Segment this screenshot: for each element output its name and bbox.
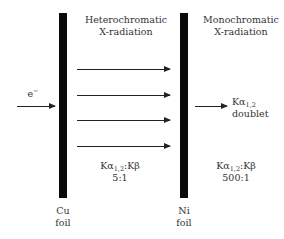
xray-arrow-2 bbox=[77, 95, 170, 96]
ni-foil-bar bbox=[180, 13, 188, 198]
ratio-expression-ni: Kα1,2:Kβ bbox=[206, 160, 266, 172]
heterochromatic-ratio: Kα1,2:Kβ 5:1 bbox=[90, 160, 150, 184]
cu-foil-label: Cu foil bbox=[48, 205, 78, 229]
output-arrow bbox=[195, 106, 227, 107]
monochromatic-ratio: Kα1,2:Kβ 500:1 bbox=[206, 160, 266, 184]
xray-arrow-3 bbox=[77, 120, 170, 121]
ratio-expression-cu: Kα1,2:Kβ bbox=[90, 160, 150, 172]
doublet-word: doublet bbox=[232, 108, 274, 120]
ni-element-text: Ni bbox=[169, 205, 199, 217]
cu-foil-text: foil bbox=[48, 217, 78, 229]
ka-text: Kα bbox=[100, 160, 114, 171]
heterochromatic-line1: Heterochromatic bbox=[76, 14, 176, 26]
doublet-label: Kα1,2 doublet bbox=[232, 96, 274, 120]
ni-foil-label: Ni foil bbox=[169, 205, 199, 229]
doublet-ka-text: Kα bbox=[232, 96, 246, 107]
kb-text-ni: :Kβ bbox=[240, 160, 256, 171]
doublet-ka: Kα1,2 bbox=[232, 96, 274, 108]
ratio-value-ni: 500:1 bbox=[206, 172, 266, 184]
monochromatic-line2: X-radiation bbox=[196, 26, 284, 38]
kb-text: :Kβ bbox=[124, 160, 140, 171]
ratio-value-cu: 5:1 bbox=[90, 172, 150, 184]
cu-element-text: Cu bbox=[48, 205, 78, 217]
ni-foil-text: foil bbox=[169, 217, 199, 229]
xray-arrow-4 bbox=[77, 146, 170, 147]
monochromatic-title: Monochromatic X-radiation bbox=[196, 14, 284, 38]
cu-foil-bar bbox=[59, 13, 67, 198]
electron-beam-arrow bbox=[17, 106, 55, 107]
monochromatic-line1: Monochromatic bbox=[196, 14, 284, 26]
electron-label: e− bbox=[26, 88, 40, 100]
xray-arrow-1 bbox=[77, 69, 170, 70]
heterochromatic-title: Heterochromatic X-radiation bbox=[76, 14, 176, 38]
electron-charge: − bbox=[33, 87, 38, 95]
ka-text-ni: Kα bbox=[216, 160, 230, 171]
heterochromatic-line2: X-radiation bbox=[76, 26, 176, 38]
